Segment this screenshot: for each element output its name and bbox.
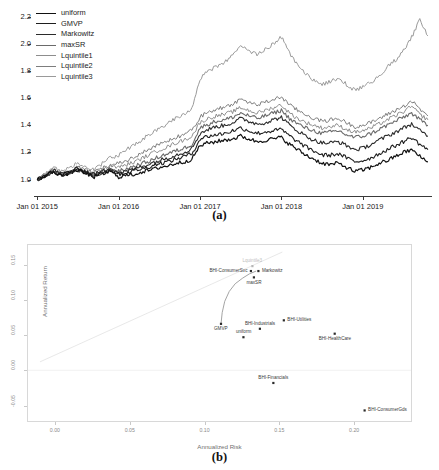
legend-item-label: maxSR: [61, 40, 85, 50]
panel-b-x-tick-mark: [55, 422, 56, 425]
legend-item-label: Lquintile3: [61, 72, 93, 82]
panel-a-x-axis-line: [34, 196, 432, 197]
panel-a-line-markowitz: [37, 116, 428, 181]
panel-b-point-label: uniform: [236, 329, 251, 334]
panel-b-x-tick-mark: [354, 422, 355, 425]
panel-b-x-tick-label: 0.00: [39, 427, 71, 433]
panel-a-y-tick-mark: [28, 152, 31, 153]
panel-b-point-label: BHI-ConsumerSvc: [209, 268, 247, 273]
panel-a-caption: (a): [0, 208, 439, 223]
legend-item-uniform[interactable]: uniform: [36, 8, 146, 19]
panel-a-x-tick-mark: [363, 197, 364, 200]
legend-line-swatch-icon: [36, 34, 56, 35]
panel-a-y-tick-mark: [28, 98, 31, 99]
panel-b-data-point[interactable]: [334, 333, 336, 335]
panel-b-y-tick-label: 0.10: [10, 287, 16, 303]
panel-b-x-tick-mark: [279, 422, 280, 425]
panel-a-cumulative-returns: 1.01.21.41.61.82.02.2 Jan 01 2015Jan 01 …: [0, 0, 439, 232]
legend-line-swatch-icon: [36, 13, 56, 14]
panel-a-y-tick-mark: [28, 17, 31, 18]
panel-b-y-tick-mark: [24, 300, 27, 301]
panel-b-point-label: BHI-HealthCare: [319, 336, 351, 341]
legend-item-lquintile2[interactable]: Lquintile2: [36, 61, 146, 72]
panel-a-y-tick-mark: [28, 180, 31, 181]
panel-b-y-tick-label: 0.05: [10, 322, 16, 338]
legend-line-swatch-icon: [36, 45, 56, 46]
panel-b-data-point[interactable]: [253, 276, 255, 278]
panel-b-y-tick-mark: [24, 265, 27, 266]
panel-b-data-point[interactable]: [283, 319, 285, 321]
legend-item-gmvp[interactable]: GMVP: [36, 19, 146, 30]
panel-b-point-label: Lquintile3: [242, 258, 262, 263]
panel-a-x-tick-mark: [37, 197, 38, 200]
legend-item-lquintile1[interactable]: Lquintile1: [36, 50, 146, 61]
legend-item-maxsr[interactable]: maxSR: [36, 40, 146, 51]
panel-b-x-tick-label: 0.05: [114, 427, 146, 433]
panel-b-y-tick-mark: [24, 335, 27, 336]
panel-a-line-lquintile2: [37, 97, 428, 179]
panel-b-point-label: GMVP: [214, 326, 228, 331]
panel-a-y-tick-mark: [28, 71, 31, 72]
panel-b-x-axis-label: Annualized Risk: [0, 443, 439, 450]
panel-b-data-point[interactable]: [364, 409, 366, 411]
panel-b-point-label: maxSR: [246, 280, 261, 285]
legend-line-swatch-icon: [36, 76, 56, 77]
panel-b-data-point[interactable]: [251, 265, 253, 267]
panel-b-data-point[interactable]: [259, 328, 261, 330]
legend-line-swatch-icon: [36, 66, 56, 67]
panel-b-data-point[interactable]: [257, 270, 259, 272]
panel-b-plot-frame: Lquintile3MarkowitzBHI-ConsumerSvcmaxSRG…: [27, 244, 412, 422]
panel-b-data-point[interactable]: [250, 270, 252, 272]
panel-b-y-tick-mark: [24, 370, 27, 371]
legend-item-label: Lquintile1: [61, 51, 93, 61]
panel-b-point-label: BHI-Financials: [258, 375, 288, 380]
panel-b-point-label: BHI-Industrials: [245, 321, 275, 326]
panel-a-x-tick-mark: [200, 197, 201, 200]
legend-item-label: GMVP: [61, 19, 83, 29]
panel-b-y-axis-label: Annualized Return: [41, 247, 48, 337]
figure-container: 1.01.21.41.61.82.02.2 Jan 01 2015Jan 01 …: [0, 0, 439, 470]
legend-item-label: Markowitz: [61, 29, 94, 39]
panel-b-point-label: BHI-ConsumerGds: [368, 407, 407, 412]
legend-item-label: uniform: [61, 8, 86, 18]
panel-b-point-label: BHI-Utilities: [287, 317, 311, 322]
panel-b-y-tick-mark: [24, 406, 27, 407]
panel-a-y-tick-mark: [28, 125, 31, 126]
panel-b-y-tick-label: 0.00: [10, 357, 16, 373]
panel-a-y-axis: 1.01.21.41.61.82.02.2: [0, 0, 31, 195]
panel-b-data-point[interactable]: [272, 382, 274, 384]
panel-b-data-point[interactable]: [220, 323, 222, 325]
panel-a-x-tick-mark: [281, 197, 282, 200]
panel-b-x-tick-label: 0.15: [263, 427, 295, 433]
panel-a-legend: uniformGMVPMarkowitzmaxSRLquintile1Lquin…: [36, 8, 146, 82]
panel-a-x-tick-mark: [119, 197, 120, 200]
panel-a-line-gmvp: [37, 127, 428, 180]
panel-b-data-point[interactable]: [242, 336, 244, 338]
panel-b-x-tick-mark: [130, 422, 131, 425]
panel-b-y-tick-label: 0.15: [10, 252, 16, 268]
panel-b-point-label: Markowitz: [262, 268, 283, 273]
legend-item-markowitz[interactable]: Markowitz: [36, 29, 146, 40]
panel-a-y-tick-mark: [28, 44, 31, 45]
panel-b-caption: (b): [0, 450, 439, 465]
legend-line-swatch-icon: [36, 23, 56, 24]
panel-b-x-tick-label: 0.10: [189, 427, 221, 433]
panel-b-x-tick-label: 0.20: [338, 427, 370, 433]
panel-b-x-tick-mark: [205, 422, 206, 425]
panel-b-risk-return-scatter: Lquintile3MarkowitzBHI-ConsumerSvcmaxSRG…: [0, 236, 439, 470]
legend-item-label: Lquintile2: [61, 61, 93, 71]
legend-item-lquintile3[interactable]: Lquintile3: [36, 72, 146, 83]
legend-line-swatch-icon: [36, 55, 56, 56]
panel-b-y-tick-label: -0.05: [10, 393, 16, 409]
